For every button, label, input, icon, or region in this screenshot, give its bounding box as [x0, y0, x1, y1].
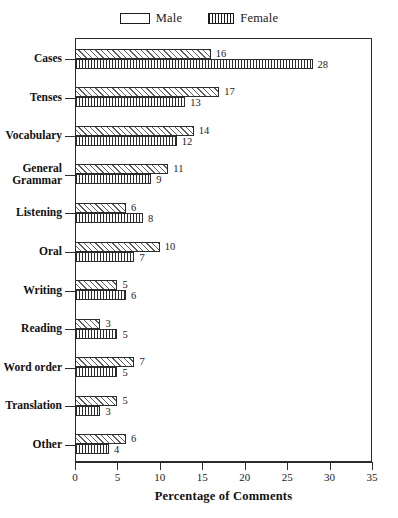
- legend-swatch-female-icon: [208, 13, 234, 24]
- x-axis-line: [75, 462, 372, 463]
- y-axis-tick: [65, 213, 75, 214]
- bar-female: [75, 59, 313, 69]
- bar-value-female: 5: [122, 368, 127, 378]
- bar-female: [75, 329, 117, 339]
- bar-female: [75, 290, 126, 300]
- y-axis-label: Vocabulary: [6, 129, 62, 141]
- y-axis-tick: [65, 368, 75, 369]
- x-axis-tick-label: 0: [72, 471, 78, 483]
- bar-female: [75, 213, 143, 223]
- y-axis-label: Writing: [23, 284, 62, 296]
- y-axis-label: Listening: [16, 206, 62, 218]
- y-axis-tick: [65, 445, 75, 446]
- y-axis-label: Reading: [21, 322, 62, 334]
- y-axis-tick: [65, 136, 75, 137]
- bar-male: [75, 164, 168, 174]
- bar-value-female: 4: [114, 445, 119, 455]
- bar-male: [75, 49, 211, 59]
- x-axis-tick: [75, 462, 76, 470]
- bar-value-female: 12: [182, 137, 193, 147]
- legend-entry-female: Female: [208, 12, 278, 25]
- y-axis-tick: [65, 291, 75, 292]
- x-axis-tick-label: 5: [115, 471, 121, 483]
- legend-label-female: Female: [240, 12, 278, 25]
- bar-value-male: 11: [173, 164, 183, 174]
- y-axis-label: Cases: [34, 52, 62, 64]
- bar-male: [75, 126, 194, 136]
- bar-value-female: 28: [318, 60, 329, 70]
- bar-female: [75, 367, 117, 377]
- bar-value-male: 5: [122, 280, 127, 290]
- bar-value-male: 5: [122, 396, 127, 406]
- bar-male: [75, 396, 117, 406]
- x-axis-tick: [160, 462, 161, 470]
- bar-male: [75, 242, 160, 252]
- y-axis-tick: [65, 98, 75, 99]
- x-axis-tick-label: 20: [239, 471, 250, 483]
- bar-value-male: 3: [105, 319, 110, 329]
- x-axis-tick: [245, 462, 246, 470]
- bar-male: [75, 319, 100, 329]
- y-axis-tick: [65, 406, 75, 407]
- bar-value-female: 5: [122, 330, 127, 340]
- y-axis-tick: [65, 59, 75, 60]
- bar-value-male: 16: [216, 49, 227, 59]
- bar-value-male: 10: [165, 242, 176, 252]
- legend-entry-male: Male: [120, 12, 182, 25]
- x-axis-tick-label: 35: [367, 471, 378, 483]
- bar-value-male: 6: [131, 434, 136, 444]
- y-axis-tick: [65, 175, 75, 176]
- bar-value-male: 14: [199, 126, 210, 136]
- y-axis-label: Other: [33, 438, 62, 450]
- legend-swatch-male-icon: [120, 13, 150, 24]
- y-axis-label: General Grammar: [12, 162, 62, 186]
- bar-value-male: 7: [139, 357, 144, 367]
- y-axis-label: Tenses: [30, 91, 62, 103]
- bar-male: [75, 87, 219, 97]
- y-axis-tick: [65, 329, 75, 330]
- bar-chart: Male Female 1628171314121196810756357553…: [0, 0, 398, 518]
- x-axis-title: Percentage of Comments: [75, 489, 372, 504]
- bar-female: [75, 406, 100, 416]
- x-axis-tick: [287, 462, 288, 470]
- bar-male: [75, 357, 134, 367]
- x-axis-tick-label: 15: [197, 471, 208, 483]
- y-axis-labels: CasesTensesVocabularyGeneral GrammarList…: [0, 38, 75, 462]
- y-axis-label: Translation: [5, 399, 62, 411]
- bar-female: [75, 136, 177, 146]
- x-axis-tick: [372, 462, 373, 470]
- legend-label-male: Male: [156, 12, 182, 25]
- bar-value-female: 7: [139, 253, 144, 263]
- x-axis-tick: [117, 462, 118, 470]
- bar-female: [75, 174, 151, 184]
- x-axis-tick-label: 30: [324, 471, 335, 483]
- x-axis-tick-label: 10: [154, 471, 165, 483]
- x-axis-tick: [330, 462, 331, 470]
- bar-value-female: 9: [156, 175, 161, 185]
- bars-layer: 162817131412119681075635755364: [75, 38, 372, 462]
- bar-value-female: 8: [148, 214, 153, 224]
- bar-value-male: 17: [224, 87, 235, 97]
- chart-legend: Male Female: [0, 12, 398, 25]
- bar-value-female: 3: [105, 407, 110, 417]
- x-axis-tick-label: 25: [282, 471, 293, 483]
- bar-female: [75, 97, 185, 107]
- bar-male: [75, 280, 117, 290]
- bar-male: [75, 203, 126, 213]
- bar-value-male: 6: [131, 203, 136, 213]
- y-axis-label: Oral: [39, 245, 62, 257]
- y-axis-label: Word order: [4, 361, 62, 373]
- x-axis-tick: [202, 462, 203, 470]
- bar-value-female: 6: [131, 291, 136, 301]
- bar-female: [75, 444, 109, 454]
- y-axis-tick: [65, 252, 75, 253]
- bar-female: [75, 252, 134, 262]
- bar-male: [75, 434, 126, 444]
- bar-value-female: 13: [190, 98, 201, 108]
